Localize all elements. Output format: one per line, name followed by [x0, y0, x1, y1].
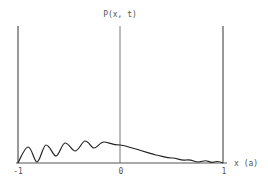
chart-canvas: P(x, t) -1 0 1 x (a): [0, 0, 268, 183]
x-tick-left: -1: [13, 167, 23, 176]
x-tick-right: 1: [222, 167, 227, 176]
x-tick-center: 0: [119, 167, 124, 176]
x-axis-label: x (a): [234, 159, 258, 168]
chart-title: P(x, t): [103, 10, 137, 19]
